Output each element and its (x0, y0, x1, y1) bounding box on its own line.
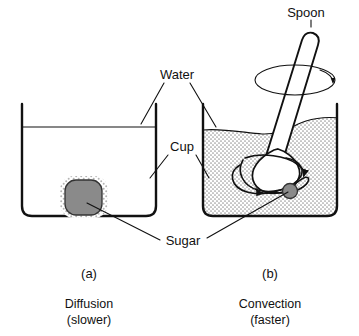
caption-process-b: Convection (239, 297, 302, 311)
leader-sugar-left (87, 203, 160, 240)
label-water: Water (160, 67, 195, 82)
stir-arrow-icon (320, 70, 333, 82)
caption-letter-b: (b) (262, 266, 278, 281)
leader-water-left (141, 83, 164, 124)
sugar-dissolving-diagram: Water Cup Sugar Spoon (a) Diffusion (slo… (0, 0, 359, 336)
sugar-particle-b (283, 184, 298, 199)
label-sugar: Sugar (166, 233, 201, 248)
panel-b-group (203, 33, 340, 220)
diagram-root: Water Cup Sugar Spoon (a) Diffusion (slo… (0, 0, 359, 336)
caption-rate-a: (slower) (67, 313, 111, 327)
caption-letter-a: (a) (81, 266, 97, 281)
label-cup: Cup (170, 139, 194, 154)
caption-rate-b: (faster) (250, 313, 290, 327)
leader-cup-left (150, 155, 168, 178)
panel-a-group (22, 104, 156, 218)
sugar-lump-a (65, 180, 102, 215)
caption-process-a: Diffusion (65, 297, 113, 311)
label-spoon: Spoon (287, 5, 325, 20)
